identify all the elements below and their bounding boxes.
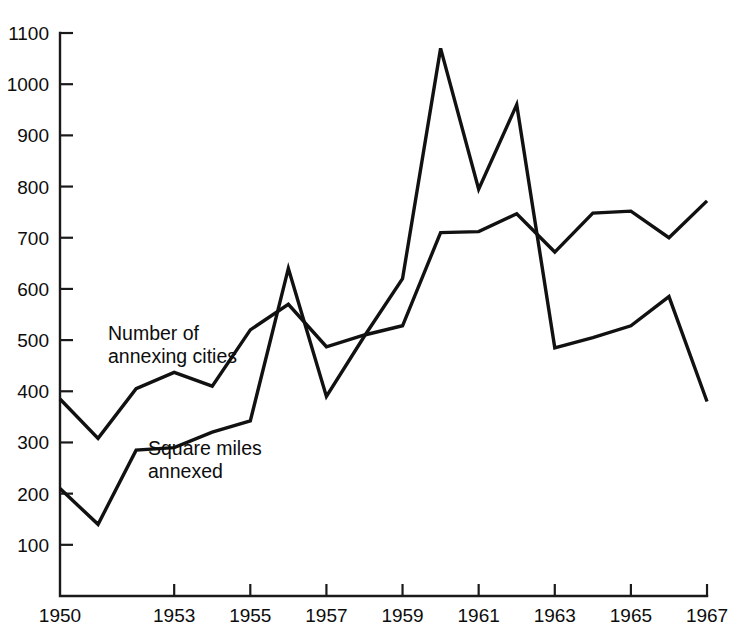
x-axis-tick-label: 1965	[610, 605, 652, 626]
x-axis-tick-label: 1959	[381, 605, 423, 626]
annexing-cities-label-line1: Number of	[108, 322, 200, 344]
x-axis: 195019531955195719591961196319651967	[39, 584, 728, 626]
square-miles-label-line1: Square miles	[148, 437, 262, 459]
y-axis-tick-label: 100	[17, 535, 49, 556]
x-axis-tick-label: 1953	[153, 605, 195, 626]
line-chart: 10020030040050060070080090010001100 1950…	[0, 0, 748, 641]
x-axis-tick-label: 1967	[686, 605, 728, 626]
axis-frame	[60, 33, 707, 596]
y-axis: 10020030040050060070080090010001100	[7, 23, 73, 556]
y-axis-tick-label: 900	[17, 125, 49, 146]
x-axis-tick-label: 1957	[305, 605, 347, 626]
x-axis-tick-label: 1950	[39, 605, 81, 626]
chart-container: 10020030040050060070080090010001100 1950…	[0, 0, 748, 641]
x-axis-tick-label: 1955	[229, 605, 271, 626]
axis-lines	[60, 33, 707, 596]
y-axis-tick-label: 500	[17, 330, 49, 351]
y-axis-tick-label: 1100	[8, 23, 49, 44]
y-axis-tick-label: 200	[17, 484, 49, 505]
x-axis-tick-label: 1963	[534, 605, 576, 626]
square-miles-label: Square milesannexed	[148, 437, 262, 482]
y-axis-tick-label: 400	[17, 381, 49, 402]
annexing-cities-label-line2: annexing cities	[108, 345, 237, 367]
y-axis-tick-label: 800	[17, 177, 49, 198]
y-axis-tick-label: 600	[17, 279, 49, 300]
x-axis-tick-label: 1961	[458, 605, 500, 626]
y-axis-tick-label: 700	[17, 228, 49, 249]
annexing-cities-label: Number ofannexing cities	[108, 322, 237, 367]
series-line-annexing-cities	[60, 201, 707, 438]
square-miles-label-line2: annexed	[148, 460, 223, 482]
y-axis-tick-label: 300	[17, 432, 49, 453]
y-axis-tick-label: 1000	[7, 74, 49, 95]
